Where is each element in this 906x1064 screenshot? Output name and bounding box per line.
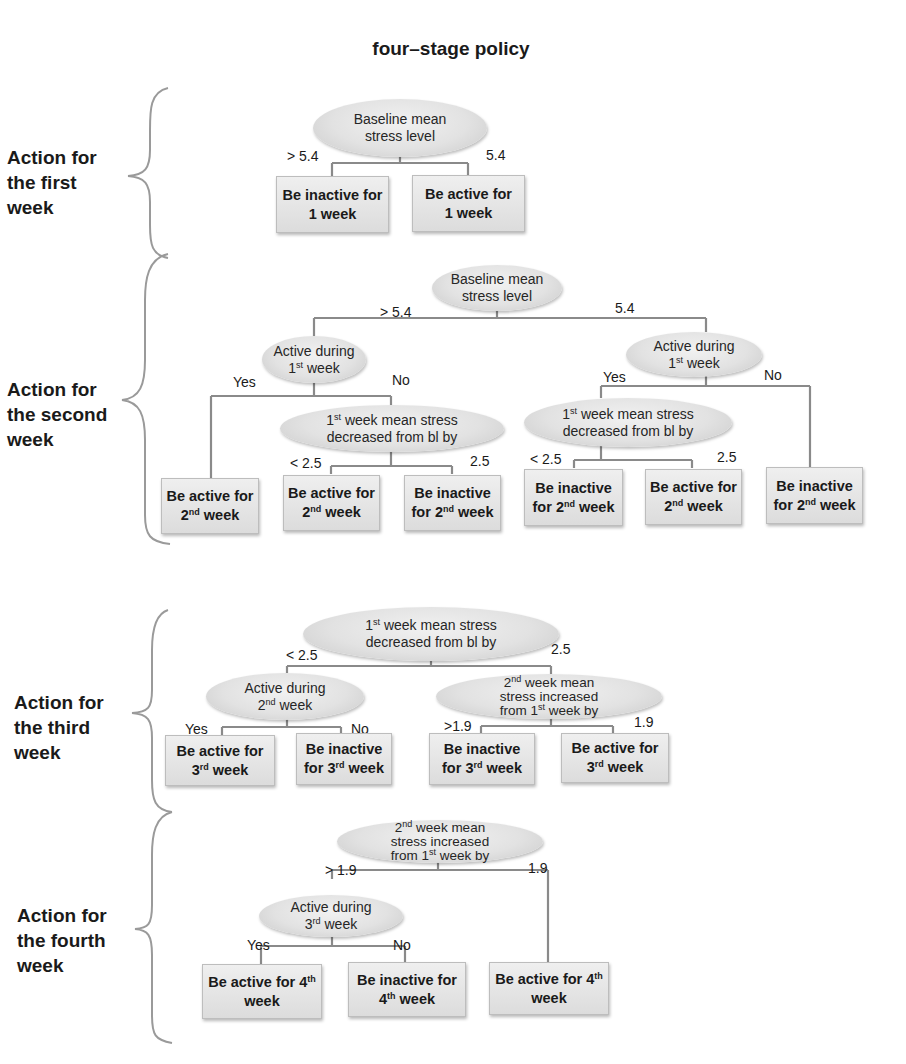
policy-diagram: four–stage policy Action forthe firstwee…	[0, 0, 906, 1064]
edge-label-2-5: 2.5	[551, 641, 570, 657]
edge-label-yes: Yes	[603, 369, 626, 385]
action-box-inactive-week-1: Be inactive for1 week	[276, 176, 389, 233]
edge-label-gt-1-9: >1.9	[444, 718, 472, 734]
edge-label-no: No	[392, 372, 410, 388]
edge-label-no: No	[764, 367, 782, 383]
action-box-active-week-2: Be active for2nd week	[283, 475, 380, 531]
action-box-inactive-week-2: Be inactivefor 2nd week	[524, 469, 623, 526]
edge-label-yes: Yes	[247, 937, 270, 953]
edge-label-lt-2-5: < 2.5	[286, 647, 318, 663]
edge-label-no: No	[393, 937, 411, 953]
edge-label-gt-1-9: > 1.9	[325, 862, 357, 878]
edge-label-lt-2-5: < 2.5	[290, 455, 322, 471]
action-box-inactive-week-3: Be inactivefor 3rd week	[296, 733, 392, 785]
decision-node-baseline-stress: Baseline meanstress level	[313, 99, 487, 157]
decision-node-active-week-3: Active during3rd week	[259, 895, 403, 937]
action-box-active-week-2: Be active for2nd week	[161, 478, 259, 534]
edge-label-2-5: 2.5	[717, 449, 736, 465]
decision-node-week-2-increase: 2nd week meanstress increasedfrom 1st we…	[436, 674, 662, 719]
edge-label-1-9: 1.9	[528, 860, 547, 876]
stage-label-fourth-week: Action forthe fourthweek	[17, 903, 107, 978]
edge-label-5-4: 5.4	[615, 300, 634, 316]
edge-label-lt-2-5: < 2.5	[530, 451, 562, 467]
stage-label-first-week: Action forthe firstweek	[7, 145, 97, 220]
action-box-active-week-1: Be active for1 week	[412, 175, 525, 232]
decision-node-week-1-decrease-right: 1st week mean stressdecreased from bl by	[524, 398, 732, 447]
edge-label-gt-5-4: > 5.4	[380, 304, 412, 320]
stage-label-second-week: Action forthe secondweek	[7, 377, 107, 452]
diagram-title: four–stage policy	[0, 38, 906, 60]
edge-label-gt-5-4: > 5.4	[287, 148, 319, 164]
decision-node-baseline-stress-2: Baseline meanstress level	[432, 265, 562, 311]
edge-label-1-9: 1.9	[634, 714, 653, 730]
action-box-inactive-week-2: Be inactivefor 2nd week	[404, 475, 501, 531]
edge-label-yes: Yes	[233, 374, 256, 390]
action-box-active-week-4: Be active for 4thweek	[202, 964, 322, 1019]
action-box-inactive-week-4: Be inactive for4th week	[348, 962, 466, 1017]
decision-node-week-2-increase: 2nd week meanstress increasedfrom 1st we…	[337, 820, 543, 863]
edge-label-2-5: 2.5	[470, 453, 489, 469]
decision-node-week-1-decrease: 1st week mean stressdecreased from bl by	[303, 607, 559, 661]
connector-lines	[0, 0, 906, 1064]
stage-label-third-week: Action forthe thirdweek	[14, 690, 104, 765]
decision-node-active-week-1-right: Active during1st week	[626, 332, 762, 377]
decision-node-week-1-decrease-left: 1st week mean stressdecreased from bl by	[280, 405, 504, 452]
action-box-active-week-2: Be active for2nd week	[645, 469, 742, 525]
action-box-active-week-3: Be active for3rd week	[165, 735, 275, 786]
action-box-active-week-3: Be active for3rd week	[561, 733, 669, 783]
action-box-inactive-week-2: Be inactivefor 2nd week	[766, 467, 863, 524]
edge-label-5-4: 5.4	[486, 147, 505, 163]
decision-node-active-week-2: Active during2nd week	[206, 673, 364, 720]
action-box-active-week-4: Be active for 4thweek	[489, 962, 609, 1015]
decision-node-active-week-1-left: Active during1st week	[262, 336, 366, 383]
action-box-inactive-week-3: Be inactivefor 3rd week	[429, 733, 535, 785]
